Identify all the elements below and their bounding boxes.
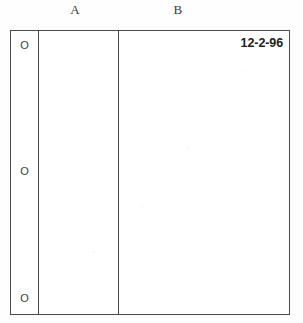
date-entry: 12-2-96	[241, 36, 283, 50]
column-header-b: B	[161, 2, 195, 18]
column-a-body[interactable]	[39, 31, 118, 314]
binder-hole-icon: O	[11, 166, 38, 177]
hole-margin-column: O O O	[11, 31, 38, 314]
binder-hole-icon: O	[11, 293, 38, 304]
scanned-page: A B O O O 12-2-96	[0, 0, 303, 323]
column-b-body[interactable]: 12-2-96	[119, 31, 289, 314]
binder-hole-icon: O	[11, 40, 38, 51]
form-table: O O O 12-2-96	[10, 30, 290, 315]
column-header-a: A	[58, 2, 92, 18]
